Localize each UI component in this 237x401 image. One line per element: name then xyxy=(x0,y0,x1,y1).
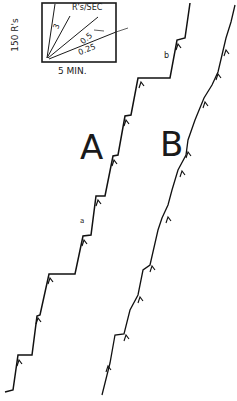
cumulative-record-figure xyxy=(0,0,237,401)
reinforcement-marks-a xyxy=(17,44,181,366)
inset-rate-title: R's/SEC xyxy=(72,3,102,12)
inset-y-scale-label: 150 R's xyxy=(10,12,20,58)
curve-b-label: B xyxy=(160,124,183,164)
curve-b-line xyxy=(102,5,235,395)
annotation-a: a xyxy=(80,217,84,225)
annotation-b: b xyxy=(164,51,169,60)
reinforcement-marks-b xyxy=(106,50,229,372)
curve-a-label: A xyxy=(80,127,103,167)
inset-x-scale-label: 5 MIN. xyxy=(58,66,87,76)
